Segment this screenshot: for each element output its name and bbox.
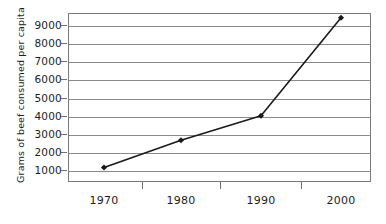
x-axis-tick-mark bbox=[142, 182, 143, 189]
y-axis-tick-label: 1000 bbox=[16, 165, 62, 175]
gridline bbox=[69, 26, 370, 27]
gridline bbox=[69, 117, 370, 118]
x-axis-tick-mark bbox=[220, 182, 221, 189]
y-axis-tick-label: 5000 bbox=[16, 93, 62, 103]
gridline bbox=[69, 80, 370, 81]
line-chart: Grams of beef consumed per capita 100020… bbox=[0, 0, 386, 224]
y-axis-tick-mark bbox=[61, 134, 67, 135]
y-axis-tick-mark bbox=[61, 43, 67, 44]
y-axis-tick-label: 6000 bbox=[16, 74, 62, 84]
gridline bbox=[69, 135, 370, 136]
x-axis-tick-label: 1990 bbox=[231, 194, 291, 207]
x-axis-tick-label: 1970 bbox=[74, 194, 134, 207]
y-axis-tick-mark bbox=[61, 98, 67, 99]
y-axis-tick-mark bbox=[61, 116, 67, 117]
y-axis-tick-label: 7000 bbox=[16, 56, 62, 66]
y-axis-tick-label: 8000 bbox=[16, 38, 62, 48]
x-axis-tick-mark bbox=[301, 182, 302, 189]
y-axis-tick-labels: 100020003000400050006000700080009000 bbox=[10, 13, 62, 182]
y-axis-tick-mark bbox=[61, 170, 67, 171]
gridline bbox=[69, 99, 370, 100]
y-axis-tick-mark bbox=[61, 25, 67, 26]
x-axis-tick-label: 2000 bbox=[311, 194, 371, 207]
gridline bbox=[69, 171, 370, 172]
y-axis-tick-label: 4000 bbox=[16, 111, 62, 121]
y-axis-tick-label: 3000 bbox=[16, 129, 62, 139]
y-axis-tick-mark bbox=[61, 79, 67, 80]
plot-area bbox=[68, 13, 371, 182]
gridline bbox=[69, 62, 370, 63]
y-axis-tick-mark bbox=[61, 61, 67, 62]
y-axis-tick-label: 9000 bbox=[16, 20, 62, 30]
gridline bbox=[69, 44, 370, 45]
x-axis-tick-label: 1980 bbox=[151, 194, 211, 207]
y-axis-tick-label: 2000 bbox=[16, 147, 62, 157]
gridline bbox=[69, 153, 370, 154]
y-axis-tick-mark bbox=[61, 152, 67, 153]
